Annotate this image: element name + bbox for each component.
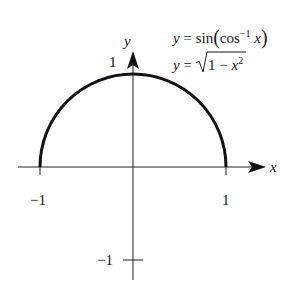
x-axis-label: x bbox=[269, 159, 277, 175]
equation-2: y = bbox=[171, 57, 192, 73]
y-axis-label: y bbox=[122, 33, 131, 49]
tick-label-x-neg1: −1 bbox=[30, 192, 46, 208]
semicircle-diagram: y x −1 1 1 −1 y = sin(cos−1 x) y = 1 − x… bbox=[0, 0, 285, 285]
equation-1: y = sin(cos−1 x) bbox=[171, 26, 268, 49]
tick-label-y-pos1: 1 bbox=[109, 54, 117, 70]
equation-2-radicand: 1 − x2 bbox=[208, 55, 243, 73]
tick-label-x-pos1: 1 bbox=[222, 192, 230, 208]
tick-label-y-neg1: −1 bbox=[97, 252, 113, 268]
